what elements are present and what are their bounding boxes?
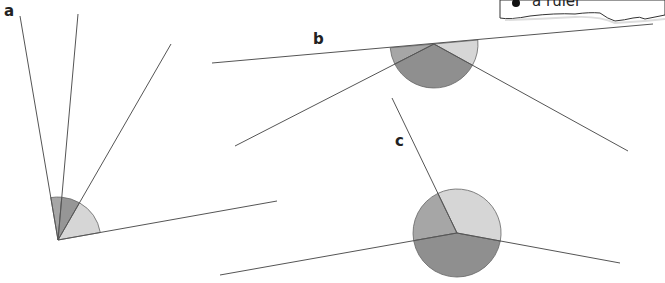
- diagram-c: [220, 98, 620, 277]
- diagram-a: [20, 14, 277, 240]
- diagram-c-sector-bottom: [414, 233, 501, 277]
- label-a: a: [4, 4, 14, 19]
- label-b: b: [313, 32, 324, 47]
- diagram-b-ray-right: [434, 44, 628, 151]
- diagram-a-ray-3: [58, 44, 171, 240]
- diagram-b: [212, 24, 653, 151]
- diagram-b-ray-left: [235, 44, 434, 146]
- equipment-note-box: [500, 0, 665, 23]
- diagram-a-ray-1: [20, 16, 58, 240]
- angle-diagrams: [0, 0, 665, 283]
- label-c: c: [395, 134, 404, 149]
- equipment-item-ruler: a ruler: [532, 0, 581, 9]
